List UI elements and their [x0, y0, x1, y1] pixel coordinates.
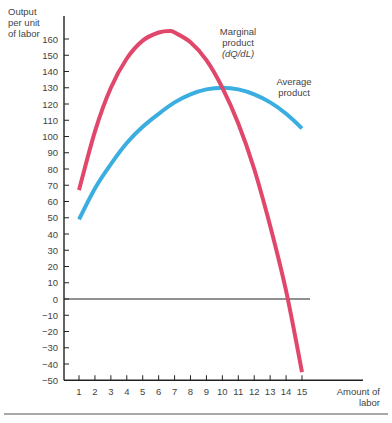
x-tick-label: 14: [281, 386, 292, 397]
x-axis-title: labor: [359, 397, 380, 408]
average-product-label: Average: [276, 76, 311, 87]
y-tick-label: 60: [47, 196, 58, 207]
y-tick-label: 0: [53, 294, 58, 305]
y-tick-label: 150: [42, 50, 58, 61]
y-axis-title: of labor: [8, 28, 40, 39]
y-tick-label: 90: [47, 147, 58, 158]
y-tick-label: 10: [47, 277, 58, 288]
x-tick-label: 1: [76, 386, 81, 397]
y-tick-label: 130: [42, 82, 58, 93]
marginal-product-label: (dQ/dL): [222, 48, 254, 59]
y-tick-label: 20: [47, 261, 58, 272]
x-tick-label: 6: [156, 386, 161, 397]
y-tick-label: −40: [42, 359, 58, 370]
chart: 1601501401301201101009080706050403020100…: [0, 0, 392, 423]
x-tick-label: 13: [265, 386, 276, 397]
marginal-product-label: product: [222, 37, 254, 48]
y-tick-label: 120: [42, 99, 58, 110]
x-tick-label: 15: [297, 386, 308, 397]
y-tick-label: 100: [42, 131, 58, 142]
axes: 1601501401301201101009080706050403020100…: [42, 16, 363, 397]
y-tick-label: 40: [47, 229, 58, 240]
x-tick-label: 7: [172, 386, 177, 397]
x-axis-title: Amount of: [337, 386, 381, 397]
y-tick-label: −10: [42, 310, 58, 321]
y-axis-title: per unit: [8, 17, 40, 28]
average-product-label: product: [278, 87, 310, 98]
y-tick-label: 140: [42, 66, 58, 77]
x-tick-label: 11: [233, 386, 243, 397]
y-tick-label: 70: [47, 180, 58, 191]
average-product-curve: [79, 88, 302, 220]
marginal-product-label: Marginal: [220, 26, 256, 37]
y-axis-title: Output: [8, 6, 37, 17]
y-tick-label: −20: [42, 326, 58, 337]
x-tick-label: 9: [204, 386, 209, 397]
x-tick-label: 10: [217, 386, 228, 397]
y-tick-label: 80: [47, 164, 58, 175]
y-tick-label: 50: [47, 212, 58, 223]
x-tick-label: 8: [188, 386, 193, 397]
x-tick-label: 3: [108, 386, 113, 397]
x-tick-label: 5: [140, 386, 145, 397]
marginal-product-curve: [79, 31, 302, 372]
y-tick-label: 30: [47, 245, 58, 256]
y-tick-label: 160: [42, 34, 58, 45]
x-tick-label: 2: [92, 386, 97, 397]
x-tick-label: 4: [124, 386, 129, 397]
y-tick-label: −30: [42, 342, 58, 353]
y-tick-label: −50: [42, 375, 58, 386]
curves: [79, 31, 302, 372]
y-tick-label: 110: [43, 115, 58, 126]
x-tick-label: 12: [249, 386, 260, 397]
